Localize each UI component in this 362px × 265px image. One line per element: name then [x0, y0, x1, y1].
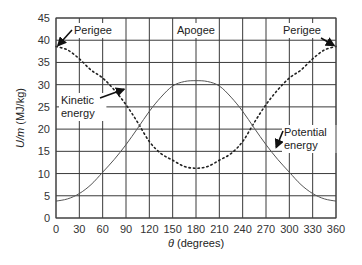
annotation-perigee-right: Perigee — [278, 23, 325, 38]
y-tick-label: 5 — [44, 190, 50, 202]
x-tick-label: 240 — [233, 223, 251, 235]
x-tick-label: 210 — [210, 223, 228, 235]
x-tick-label: 60 — [97, 223, 109, 235]
y-tick-label: 40 — [38, 34, 50, 46]
annotations: PerigeeApogeePerigeeKineticenergyPotenti… — [58, 23, 342, 153]
x-tick-label: 120 — [140, 223, 158, 235]
annotation-perigee-left-text: Perigee — [74, 24, 112, 36]
y-tick-label: 0 — [44, 212, 50, 224]
x-tick-label: 0 — [53, 223, 59, 235]
x-tick-label: 330 — [303, 223, 321, 235]
annotation-potential-energy: Potentialenergy — [282, 125, 342, 153]
x-axis-label-unit: (degrees) — [174, 237, 224, 249]
perigee-right-arrow — [321, 38, 334, 45]
y-tick-label: 10 — [38, 168, 50, 180]
y-tick-label: 30 — [38, 79, 50, 91]
y-axis-label-symbol: U/m — [14, 128, 26, 148]
annotation-perigee-right-text: Perigee — [283, 24, 321, 36]
x-tick-label: 30 — [73, 223, 85, 235]
annotation-apogee-text: Apogee — [177, 24, 215, 36]
annotation-apogee: Apogee — [175, 23, 216, 38]
y-tick-label: 25 — [38, 101, 50, 113]
x-tick-label: 180 — [187, 223, 205, 235]
y-axis-label-unit: (MJ/kg) — [14, 88, 26, 128]
y-tick-labels: 051015202530354045 — [38, 12, 50, 224]
annotation-potential-energy-text: energy — [284, 139, 318, 151]
x-axis-label: θ (degrees) — [168, 237, 224, 249]
annotation-kinetic-energy: Kineticenergy — [59, 93, 106, 121]
y-tick-label: 45 — [38, 12, 50, 24]
x-tick-label: 270 — [257, 223, 275, 235]
x-tick-label: 150 — [163, 223, 181, 235]
perigee-left-arrow — [58, 30, 72, 45]
x-tick-labels: 0306090120150180210240270300330360 — [53, 223, 345, 235]
energy-vs-angle-chart: 051015202530354045 030609012015018021024… — [0, 0, 362, 265]
x-tick-label: 90 — [120, 223, 132, 235]
x-tick-label: 360 — [327, 223, 345, 235]
annotation-perigee-left: Perigee — [72, 23, 119, 38]
y-axis-label: U/m (MJ/kg) — [14, 88, 26, 148]
annotation-kinetic-energy-text: Kinetic — [61, 94, 95, 106]
potential-energy-arrow — [276, 131, 283, 147]
annotation-kinetic-energy-text: energy — [61, 107, 95, 119]
annotation-potential-energy-text: Potential — [284, 126, 327, 138]
y-tick-label: 20 — [38, 123, 50, 135]
y-tick-label: 15 — [38, 145, 50, 157]
y-tick-label: 35 — [38, 56, 50, 68]
x-tick-label: 300 — [280, 223, 298, 235]
